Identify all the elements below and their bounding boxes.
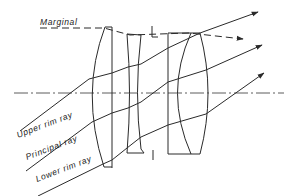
- label-upper-rim-ray: Upper rim ray: [15, 109, 74, 140]
- lens-3: [168, 33, 208, 154]
- marginal-ray: [40, 28, 243, 39]
- upper-rim-ray: [20, 12, 258, 131]
- principal-ray: [26, 45, 262, 171]
- lens-2: [127, 34, 144, 153]
- svg-text:Marginal: Marginal: [40, 17, 78, 27]
- svg-text:Principal ray: Principal ray: [24, 133, 79, 162]
- lens-ray-diagram: Marginal Upper rim ray Principal ray Low…: [0, 0, 290, 196]
- lens-1: [92, 27, 112, 168]
- label-marginal: Marginal: [40, 17, 78, 27]
- svg-text:Upper rim ray: Upper rim ray: [15, 109, 74, 140]
- label-principal-ray: Principal ray: [24, 133, 79, 162]
